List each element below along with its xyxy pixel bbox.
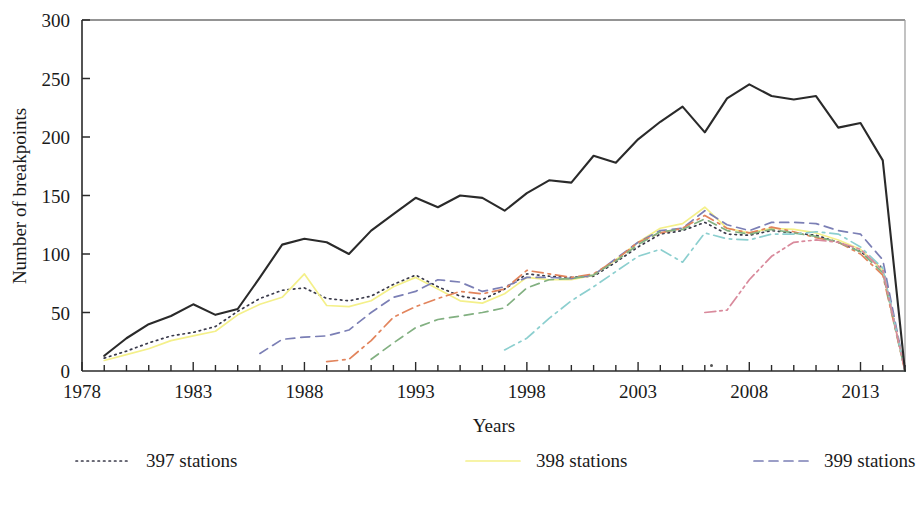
axis-tick-marks <box>82 20 905 371</box>
x-tick-label: 2013 <box>842 381 880 402</box>
legend-label: 397 stations <box>146 450 237 472</box>
chart-figure: 050100150200250300 197819831988199319982… <box>0 0 919 527</box>
y-tick-label: 300 <box>42 10 71 31</box>
y-tick-label: 50 <box>51 303 70 324</box>
legend-swatch-icon <box>74 454 132 468</box>
x-tick-label: 1993 <box>397 381 435 402</box>
series-line-400-stations <box>327 215 905 371</box>
data-series-group <box>104 84 905 371</box>
series-line-total <box>104 84 905 371</box>
x-tick-label: 2008 <box>730 381 768 402</box>
y-tick-label: 150 <box>42 186 71 207</box>
legend-item[interactable]: 397 stations <box>0 448 390 474</box>
legend-item[interactable]: 399 stations <box>678 448 919 474</box>
image-artifact-speck <box>710 364 713 367</box>
y-tick-label: 200 <box>42 127 71 148</box>
x-tick-label: 1978 <box>63 381 101 402</box>
x-tick-label: 2003 <box>619 381 657 402</box>
y-tick-label: 100 <box>42 244 71 265</box>
series-line-403-stations <box>505 232 905 371</box>
x-axis-tick-labels: 19781983198819931998200320082013 <box>63 381 880 402</box>
line-chart-plot: 050100150200250300 197819831988199319982… <box>0 0 919 440</box>
legend-label: 398 stations <box>536 450 627 472</box>
y-axis-tick-labels: 050100150200250300 <box>42 10 71 382</box>
legend-item[interactable]: 398 stations <box>390 448 678 474</box>
x-tick-label: 1998 <box>508 381 546 402</box>
legend-label: 399 stations <box>824 450 915 472</box>
y-axis-title: Number of breakpoints <box>9 108 30 284</box>
y-tick-label: 0 <box>61 361 71 382</box>
y-tick-label: 250 <box>42 69 71 90</box>
chart-legend: 397 stations398 stations399 stations400 … <box>0 448 919 527</box>
series-line-397-stations <box>104 222 905 371</box>
axis-lines <box>82 20 905 371</box>
legend-swatch-icon <box>752 454 810 468</box>
legend-swatch-icon <box>464 454 522 468</box>
x-tick-label: 1988 <box>285 381 323 402</box>
x-axis-title: Years <box>473 415 515 436</box>
x-tick-label: 1983 <box>174 381 212 402</box>
